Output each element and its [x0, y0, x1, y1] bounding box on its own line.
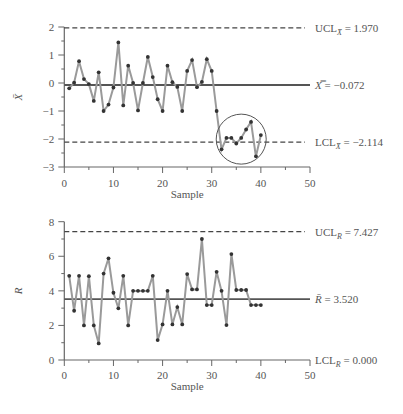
- control-label-ucl: UCLX̄ = 1.970: [315, 22, 379, 37]
- xbar-chart: 210−1−2−301020304050SampleX̄UCLX̄ = 1.97…: [12, 21, 383, 200]
- data-point: [254, 303, 258, 307]
- data-point: [215, 109, 219, 113]
- x-tick-label: 20: [157, 177, 169, 189]
- data-point: [239, 288, 243, 292]
- data-point: [171, 80, 175, 84]
- data-point: [72, 81, 76, 85]
- y-tick-label: 4: [49, 285, 55, 297]
- data-point: [92, 99, 96, 103]
- data-point: [121, 104, 125, 108]
- data-point: [205, 57, 209, 61]
- data-point: [225, 323, 229, 327]
- data-point: [72, 309, 76, 313]
- data-point: [67, 274, 71, 278]
- data-point: [180, 322, 184, 326]
- data-point: [166, 289, 170, 293]
- x-tick-label: 50: [305, 177, 317, 189]
- data-point: [126, 64, 130, 68]
- data-point: [229, 136, 233, 140]
- y-tick-label: 1: [49, 49, 55, 61]
- data-point: [131, 81, 135, 85]
- control-label-ucl: UCLR = 7.427: [315, 226, 379, 241]
- data-point: [107, 103, 111, 107]
- data-point: [151, 75, 155, 79]
- y-tick-label: 8: [49, 216, 55, 228]
- control-label-lcl: LCLR = 0.000: [315, 354, 378, 369]
- data-point: [259, 133, 263, 137]
- data-point: [185, 69, 189, 73]
- data-point: [195, 85, 199, 89]
- data-point: [259, 303, 263, 307]
- x-tick-label: 0: [62, 177, 68, 189]
- x-axis-title: Sample: [171, 188, 204, 200]
- x-tick-label: 40: [255, 369, 267, 381]
- data-point: [200, 237, 204, 241]
- data-point: [234, 288, 238, 292]
- x-tick-label: 30: [206, 369, 218, 381]
- data-point: [82, 77, 86, 81]
- data-point: [121, 274, 125, 278]
- data-point: [210, 303, 214, 307]
- data-point: [102, 109, 106, 113]
- data-point: [136, 289, 140, 293]
- y-tick-label: 0: [49, 354, 55, 366]
- y-tick-label: −1: [43, 105, 55, 117]
- data-point: [156, 97, 160, 101]
- data-point: [151, 274, 155, 278]
- data-point: [141, 289, 145, 293]
- data-point: [195, 288, 199, 292]
- x-tick-label: 40: [255, 177, 267, 189]
- y-tick-label: 6: [49, 250, 55, 262]
- x-tick-label: 30: [206, 177, 218, 189]
- data-point: [112, 291, 116, 295]
- y-tick-label: −2: [43, 133, 55, 145]
- data-point: [156, 338, 160, 342]
- data-point: [97, 70, 101, 74]
- control-label-lcl: LCLX̄ = −2.114: [315, 136, 383, 151]
- data-point: [67, 86, 71, 90]
- data-point: [146, 55, 150, 59]
- data-point: [87, 274, 91, 278]
- x-tick-label: 50: [305, 369, 317, 381]
- data-point: [102, 272, 106, 276]
- y-tick-label: −3: [43, 161, 55, 173]
- data-point: [112, 86, 116, 90]
- data-point: [175, 85, 179, 89]
- control-charts: 210−1−2−301020304050SampleX̄UCLX̄ = 1.97…: [0, 0, 403, 414]
- data-point: [220, 147, 224, 151]
- data-point: [185, 272, 189, 276]
- data-point: [205, 303, 209, 307]
- control-label-center: X̿ = −0.072: [314, 79, 364, 91]
- x-tick-label: 0: [62, 369, 68, 381]
- data-point: [116, 306, 120, 310]
- data-point: [200, 80, 204, 84]
- data-point: [225, 136, 229, 140]
- data-point: [87, 82, 91, 86]
- data-point: [126, 324, 130, 328]
- data-point: [131, 289, 135, 293]
- data-point: [249, 303, 253, 307]
- y-axis-title: R: [12, 287, 24, 295]
- data-point: [220, 289, 224, 293]
- data-point: [244, 288, 248, 292]
- y-tick-label: 2: [49, 319, 55, 331]
- x-tick-label: 20: [157, 369, 169, 381]
- data-point: [136, 109, 140, 113]
- data-point: [107, 256, 111, 260]
- data-point: [180, 109, 184, 113]
- data-point: [175, 305, 179, 309]
- data-point: [166, 64, 170, 68]
- data-point: [190, 58, 194, 62]
- data-point: [146, 289, 150, 293]
- data-point: [92, 324, 96, 328]
- r-chart: 0246801020304050SampleRUCLR = 7.427R̄ = …: [12, 216, 379, 392]
- x-tick-label: 10: [108, 369, 120, 381]
- data-point: [239, 136, 243, 140]
- data-point: [210, 69, 214, 73]
- data-point: [171, 322, 175, 326]
- data-point: [244, 128, 248, 132]
- x-axis-title: Sample: [171, 380, 204, 392]
- data-point: [77, 59, 81, 63]
- data-point: [234, 142, 238, 146]
- data-point: [97, 342, 101, 346]
